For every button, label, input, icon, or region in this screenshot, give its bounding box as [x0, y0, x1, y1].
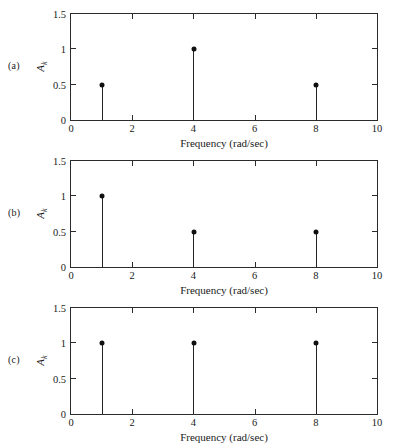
y-tick: [71, 378, 76, 379]
stem-line: [193, 232, 194, 267]
y-tick-right: [372, 231, 377, 232]
x-tick-label: 8: [313, 123, 318, 134]
x-tick-label: 6: [252, 270, 257, 281]
x-tick-label: 4: [191, 270, 196, 281]
x-axis-label: Frequency (rad/sec): [70, 137, 378, 149]
figure-stem-plots: (a)Ak00.511.50246810Frequency (rad/sec)(…: [0, 0, 393, 446]
stem-line: [193, 49, 194, 120]
x-axis-label: Frequency (rad/sec): [70, 284, 378, 296]
x-tick-top: [132, 161, 133, 166]
x-tick-label: 2: [130, 123, 135, 134]
y-axis-label: Ak: [34, 61, 49, 71]
stem-line: [102, 85, 103, 120]
y-axis-label-text: A: [34, 212, 46, 219]
panel-tag: (c): [8, 354, 20, 365]
x-tick: [255, 262, 256, 267]
x-tick-label: 0: [68, 270, 73, 281]
stem-line: [102, 196, 103, 267]
stem-line: [102, 343, 103, 414]
x-tick-top: [132, 14, 133, 19]
y-axis-label: Ak: [34, 355, 49, 365]
x-tick-top: [255, 14, 256, 19]
x-tick-top: [316, 14, 317, 19]
y-axis-label-subscript: k: [40, 208, 49, 212]
y-tick-label: 1: [44, 44, 66, 55]
x-tick: [132, 409, 133, 414]
y-tick-label: 0.5: [44, 226, 66, 237]
x-tick: [255, 409, 256, 414]
x-tick-top: [316, 308, 317, 313]
x-tick-top: [316, 161, 317, 166]
x-tick-top: [193, 14, 194, 19]
x-axis-label: Frequency (rad/sec): [70, 431, 378, 443]
panel-tag: (a): [8, 60, 20, 71]
y-tick: [71, 84, 76, 85]
x-tick-top: [193, 161, 194, 166]
x-tick-label: 0: [68, 123, 73, 134]
y-tick-right: [372, 378, 377, 379]
x-tick-label: 0: [68, 417, 73, 428]
y-tick-right: [372, 84, 377, 85]
x-tick-top: [193, 308, 194, 313]
y-axis-label: Ak: [34, 208, 49, 218]
x-tick-label: 6: [252, 123, 257, 134]
y-tick-label: 0.5: [44, 79, 66, 90]
stem-marker: [314, 341, 319, 346]
stem-line: [316, 85, 317, 120]
stem-marker: [314, 82, 319, 87]
y-tick-label: 1.5: [44, 303, 66, 314]
y-axis-label-subscript: k: [40, 61, 49, 65]
y-tick-label: 0.5: [44, 373, 66, 384]
y-tick-label: 1: [44, 191, 66, 202]
stem-marker: [314, 229, 319, 234]
x-tick-label: 4: [191, 417, 196, 428]
x-tick: [132, 262, 133, 267]
y-tick-right: [372, 195, 377, 196]
stem-marker: [100, 194, 105, 199]
stem-marker: [191, 341, 196, 346]
y-tick-label: 0: [44, 115, 66, 126]
y-tick: [71, 342, 76, 343]
x-tick: [255, 115, 256, 120]
plot-area: [70, 13, 378, 121]
x-tick-label: 10: [372, 123, 383, 134]
y-tick-label: 1.5: [44, 9, 66, 20]
stem-marker: [100, 82, 105, 87]
x-tick-label: 4: [191, 123, 196, 134]
x-tick-label: 8: [313, 270, 318, 281]
stem-line: [316, 232, 317, 267]
x-tick-label: 10: [372, 417, 383, 428]
x-tick-label: 2: [130, 417, 135, 428]
y-axis-label-subscript: k: [40, 355, 49, 359]
x-tick-top: [255, 308, 256, 313]
plot-area: [70, 307, 378, 415]
x-tick-label: 2: [130, 270, 135, 281]
stem-marker: [100, 341, 105, 346]
x-tick-label: 10: [372, 270, 383, 281]
y-tick-label: 0: [44, 409, 66, 420]
y-tick-right: [372, 48, 377, 49]
y-tick: [71, 48, 76, 49]
y-axis-label-text: A: [34, 65, 46, 72]
stem-marker: [191, 47, 196, 52]
stem-line: [193, 343, 194, 414]
y-tick: [71, 195, 76, 196]
x-tick: [132, 115, 133, 120]
y-tick-label: 1.5: [44, 156, 66, 167]
x-tick-label: 6: [252, 417, 257, 428]
panel-tag: (b): [8, 207, 20, 218]
x-tick-top: [255, 161, 256, 166]
stem-line: [316, 343, 317, 414]
y-axis-label-text: A: [34, 359, 46, 366]
plot-area: [70, 160, 378, 268]
stem-marker: [191, 229, 196, 234]
x-tick-label: 8: [313, 417, 318, 428]
y-tick-label: 1: [44, 338, 66, 349]
y-tick: [71, 231, 76, 232]
y-tick-label: 0: [44, 262, 66, 273]
y-tick-right: [372, 342, 377, 343]
x-tick-top: [132, 308, 133, 313]
